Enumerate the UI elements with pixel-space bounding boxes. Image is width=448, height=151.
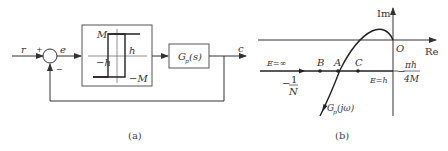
plant-label-arg: (s) — [189, 51, 202, 62]
M-label: M — [96, 29, 108, 40]
e-h-label: E=h — [369, 76, 388, 85]
curve-label-arg: (jω) — [337, 103, 355, 113]
diagram-canvas: r + − e M h −h −M G p (s) c (a) — [0, 0, 448, 151]
neg-inv-n-numerator: 1 — [291, 74, 297, 85]
neg-inv-n-denominator: N — [288, 86, 299, 97]
plus-sign: + — [36, 45, 43, 54]
point-c-label: C — [355, 57, 363, 68]
origin-label: O — [396, 43, 404, 54]
neg-h-label: −h — [96, 57, 111, 68]
point-a-label: A — [333, 57, 341, 68]
point-b-label: B — [316, 57, 324, 68]
right-fraction-numerator: πh — [404, 60, 417, 70]
h-label: h — [129, 45, 135, 56]
input-label: r — [21, 44, 27, 55]
locus-direction-arrow — [299, 69, 305, 74]
re-axis-label: Re — [425, 46, 439, 57]
neg-M-label: −M — [129, 73, 148, 84]
output-label: c — [238, 43, 244, 54]
nyquist-plot: Re Im O E=∞ E=h B A C 1 − N − πh 4M G p … — [258, 8, 439, 141]
caption-a: (a) — [128, 130, 142, 141]
right-fraction-denominator: 4M — [403, 74, 420, 84]
point-b — [318, 69, 322, 73]
point-c — [356, 69, 360, 73]
e-infinity-label: E=∞ — [266, 59, 286, 68]
caption-b: (b) — [335, 130, 349, 141]
im-axis-label: Im — [377, 8, 391, 19]
block-diagram: r + − e M h −h −M G p (s) c (a) — [12, 25, 246, 141]
summing-junction — [43, 49, 57, 63]
minus-sign: − — [56, 65, 63, 74]
error-label: e — [60, 44, 66, 55]
